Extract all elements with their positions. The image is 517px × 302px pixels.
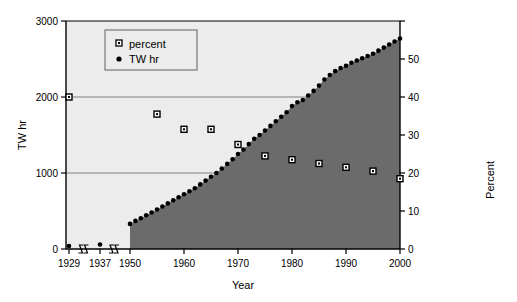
twhr-data-point: [149, 210, 154, 215]
twhr-data-point: [349, 61, 354, 66]
twhr-data-point: [279, 114, 284, 119]
x-tick-label: 1950: [119, 258, 142, 269]
twhr-data-point: [236, 152, 241, 157]
twhr-data-point: [252, 137, 257, 142]
twhr-data-point: [139, 216, 144, 221]
percent-data-point: [235, 142, 241, 148]
x-tick-label: 1980: [281, 258, 304, 269]
twhr-data-point: [311, 89, 316, 94]
x-axis-title: Year: [232, 279, 255, 291]
twhr-data-point: [387, 42, 392, 47]
y2-axis-title: Percent: [484, 161, 496, 199]
twhr-data-point: [193, 186, 198, 191]
twhr-data-point: [144, 213, 149, 218]
chart-legend: percentTW hr: [105, 30, 197, 70]
percent-data-point: [262, 153, 268, 159]
percent-data-point: [154, 111, 160, 117]
chart-figure: 0100020003000 01020304050 19291937195019…: [0, 0, 517, 302]
twhr-data-point: [301, 98, 306, 103]
twhr-data-point: [209, 175, 214, 180]
percent-data-point: [289, 157, 295, 163]
twhr-data-point: [176, 195, 181, 200]
twhr-data-point: [371, 51, 376, 56]
x-tick-label: 1990: [335, 258, 358, 269]
twhr-data-point: [284, 110, 289, 115]
twhr-data-point: [376, 48, 381, 53]
twhr-data-point: [365, 54, 370, 59]
percent-data-point: [316, 161, 322, 167]
twhr-data-point: [290, 104, 295, 109]
percent-data-point: [66, 94, 72, 100]
twhr-data-point: [203, 178, 208, 183]
twhr-data-point: [322, 77, 327, 82]
twhr-data-point: [166, 201, 171, 206]
twhr-data-point: [198, 182, 203, 187]
y-tick-label: 2000: [36, 92, 59, 103]
twhr-data-point: [398, 36, 403, 41]
twhr-data-point: [355, 58, 360, 63]
twhr-data-point: [230, 157, 235, 162]
percent-data-point: [208, 126, 214, 132]
x-tick-label: 1970: [227, 258, 250, 269]
y2-tick-label: 50: [408, 54, 420, 65]
twhr-data-point: [220, 166, 225, 171]
x-tick-label: 1929: [58, 258, 81, 269]
twhr-data-point: [225, 162, 230, 167]
twhr-data-point: [133, 219, 138, 224]
twhr-data-point: [160, 204, 165, 209]
y-tick-label: 0: [52, 244, 58, 255]
percent-data-point: [370, 168, 376, 174]
legend-label-percent: percent: [129, 38, 166, 50]
twhr-data-point: [268, 124, 273, 129]
chart-canvas: 0100020003000 01020304050 19291937195019…: [0, 0, 517, 302]
twhr-data-point: [257, 133, 262, 138]
x-tick-label: 1937: [89, 258, 112, 269]
twhr-data-point: [98, 242, 103, 247]
twhr-data-point: [182, 192, 187, 197]
twhr-data-point: [67, 244, 72, 249]
twhr-data-point: [241, 147, 246, 152]
legend-label-twhr: TW hr: [129, 53, 159, 65]
y2-tick-label: 10: [408, 206, 420, 217]
y2-tick-label: 30: [408, 130, 420, 141]
twhr-data-point: [382, 45, 387, 50]
twhr-data-point: [392, 39, 397, 44]
twhr-data-point: [333, 69, 338, 74]
twhr-data-point: [306, 93, 311, 98]
twhr-data-point: [328, 73, 333, 78]
y2-tick-label: 40: [408, 92, 420, 103]
x-tick-label: 2000: [389, 258, 412, 269]
twhr-data-point: [155, 207, 160, 212]
x-tick-label: 1960: [173, 258, 196, 269]
twhr-data-point: [344, 64, 349, 69]
twhr-data-point: [360, 56, 365, 61]
y-tick-label: 3000: [36, 16, 59, 27]
twhr-data-point: [274, 119, 279, 124]
twhr-data-point: [171, 198, 176, 203]
y2-tick-label: 20: [408, 168, 420, 179]
percent-data-point: [181, 126, 187, 132]
twhr-data-point: [214, 171, 219, 176]
legend-marker-twhr: [116, 56, 121, 61]
percent-data-point: [343, 164, 349, 170]
twhr-data-point: [247, 142, 252, 147]
y-tick-label: 1000: [36, 168, 59, 179]
twhr-data-point: [338, 66, 343, 71]
twhr-data-point: [187, 189, 192, 194]
y-axis-title: TW hr: [16, 120, 28, 150]
twhr-data-point: [128, 222, 133, 227]
twhr-data-point: [317, 83, 322, 88]
twhr-data-point: [295, 100, 300, 105]
twhr-data-point: [263, 128, 268, 133]
y2-tick-label: 0: [408, 244, 414, 255]
percent-data-point: [397, 176, 403, 182]
